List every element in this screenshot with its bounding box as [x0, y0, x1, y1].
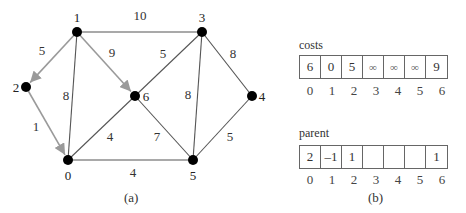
edge-3-4	[202, 32, 252, 96]
edge-4-5	[193, 96, 252, 160]
parent-indices: 0 1 2 3 4 5 6	[299, 172, 453, 188]
edge-6-5	[135, 96, 193, 160]
parent-array: 2 –1 1 1	[299, 145, 448, 169]
parent-index-4: 4	[387, 172, 409, 188]
costs-cell-5: ∞	[405, 56, 426, 78]
edge-weight-3-4: 8	[230, 46, 237, 61]
edge-weight-1-0: 8	[63, 88, 70, 103]
parent-index-6: 6	[431, 172, 453, 188]
costs-array: 6 0 5 ∞ ∞ ∞ 9	[299, 55, 448, 79]
node-1	[72, 27, 82, 37]
node-label-6: 6	[143, 89, 150, 104]
graph-nodes	[21, 27, 257, 165]
edge-weight-6-5: 7	[154, 129, 161, 144]
node-6	[130, 91, 140, 101]
costs-index-1: 1	[321, 83, 343, 99]
edge-weight-1-6: 9	[109, 45, 116, 60]
parent-index-2: 2	[343, 172, 365, 188]
edge-1-0	[68, 32, 77, 160]
parent-index-3: 3	[365, 172, 387, 188]
node-label-4: 4	[259, 89, 266, 104]
parent-index-0: 0	[299, 172, 321, 188]
costs-cell-0: 6	[300, 56, 321, 78]
parent-cell-5	[405, 146, 426, 168]
costs-cell-2: 5	[342, 56, 363, 78]
costs-cell-3: ∞	[363, 56, 384, 78]
node-label-1: 1	[74, 10, 81, 25]
node-label-0: 0	[65, 168, 72, 183]
edge-weight-4-5: 5	[227, 129, 234, 144]
parent-label: parent	[299, 126, 329, 141]
parent-cell-4	[384, 146, 405, 168]
parent-cell-3	[363, 146, 384, 168]
weighted-graph: 1059815884745 0123456	[0, 0, 290, 213]
costs-label: costs	[299, 38, 323, 53]
node-label-5: 5	[190, 168, 197, 183]
edge-weight-3-6: 5	[160, 46, 167, 61]
costs-indices: 0 1 2 3 4 5 6	[299, 83, 453, 99]
edge-3-6	[135, 32, 202, 96]
edge-1-2	[30, 32, 77, 83]
node-4	[247, 91, 257, 101]
node-label-2: 2	[13, 80, 20, 95]
parent-cell-6: 1	[426, 146, 447, 168]
edge-weight-1-2: 5	[39, 43, 46, 58]
parent-index-1: 1	[321, 172, 343, 188]
costs-index-5: 5	[409, 83, 431, 99]
costs-index-3: 3	[365, 83, 387, 99]
costs-cell-4: ∞	[384, 56, 405, 78]
costs-index-6: 6	[431, 83, 453, 99]
parent-index-5: 5	[409, 172, 431, 188]
edge-weight-2-0: 1	[33, 119, 40, 134]
edge-6-0	[68, 96, 135, 160]
parent-cell-0: 2	[300, 146, 321, 168]
edge-weight-0-5: 4	[130, 165, 137, 180]
costs-cell-6: 9	[426, 56, 447, 78]
costs-cell-1: 0	[321, 56, 342, 78]
figure-a-caption: (a)	[124, 190, 138, 206]
edge-weight-1-3: 10	[134, 8, 147, 23]
edge-1-6	[77, 32, 131, 92]
edge-weight-3-5: 8	[185, 87, 192, 102]
node-0	[63, 155, 73, 165]
parent-cell-1: –1	[321, 146, 342, 168]
edge-3-5	[193, 32, 202, 160]
parent-cell-2: 1	[342, 146, 363, 168]
costs-index-2: 2	[343, 83, 365, 99]
edge-weight-6-0: 4	[107, 129, 114, 144]
node-3	[197, 27, 207, 37]
node-label-3: 3	[199, 10, 206, 25]
node-2	[21, 82, 31, 92]
figure-b-caption: (b)	[368, 190, 383, 206]
costs-index-0: 0	[299, 83, 321, 99]
costs-index-4: 4	[387, 83, 409, 99]
node-5	[188, 155, 198, 165]
